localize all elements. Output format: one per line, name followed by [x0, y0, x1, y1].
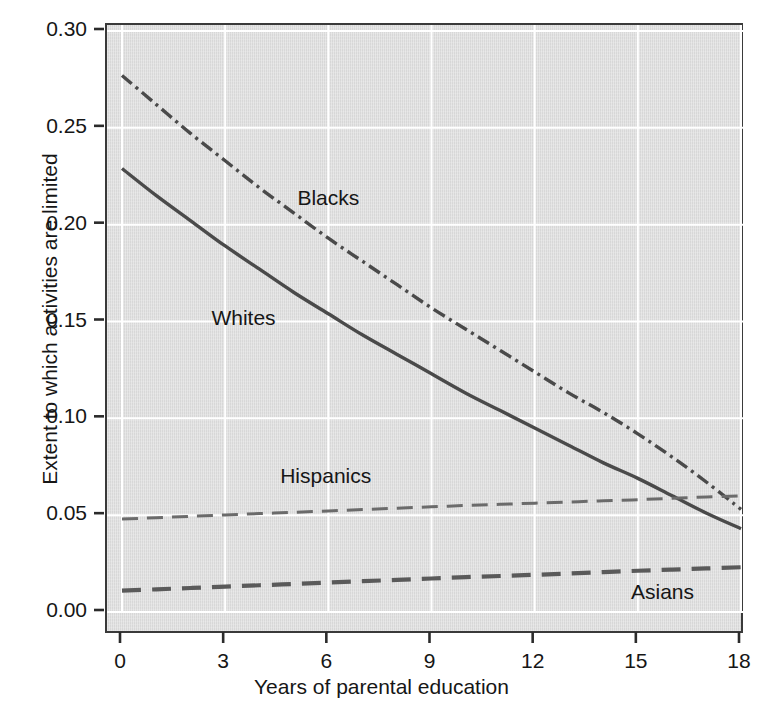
x-tick-label: 9: [390, 650, 470, 671]
series-label-blacks: Blacks: [297, 187, 359, 208]
x-tick-label: 3: [183, 650, 263, 671]
x-tick-label: 6: [286, 650, 366, 671]
y-tick-label: 0.25: [0, 115, 87, 136]
y-tick-label: 0.10: [0, 405, 87, 426]
y-tick-label: 0.30: [0, 18, 87, 39]
x-tick-label: 18: [699, 650, 763, 671]
series-label-whites: Whites: [211, 307, 275, 328]
y-tick-label: 0.20: [0, 212, 87, 233]
x-tick-label: 15: [596, 650, 676, 671]
gridlines: [107, 25, 745, 612]
y-tick-label: 0.15: [0, 309, 87, 330]
y-tick-label: 0.00: [0, 599, 87, 620]
plot-canvas: [107, 25, 745, 635]
plot-area: BlacksWhitesHispanicsAsians: [105, 23, 743, 633]
chart-figure: Extent to which activities are limited 0…: [0, 0, 763, 713]
x-tick-label: 12: [493, 650, 573, 671]
series-label-asians: Asians: [631, 581, 694, 602]
y-tick-label: 0.05: [0, 502, 87, 523]
series-label-hispanics: Hispanics: [280, 465, 371, 486]
x-axis-label: Years of parental education: [0, 675, 763, 699]
x-tick-label: 0: [80, 650, 160, 671]
